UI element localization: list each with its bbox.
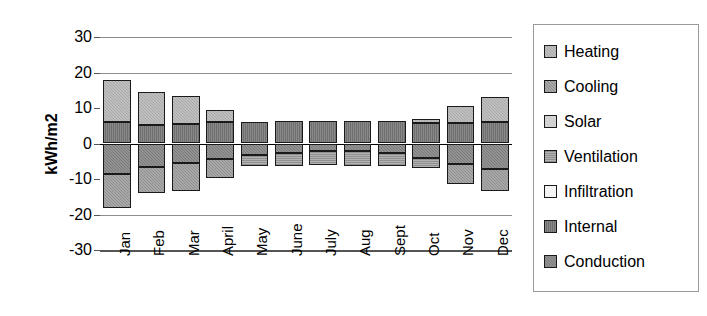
legend-swatch-infiltration-icon	[544, 185, 557, 198]
legend-label: Conduction	[564, 254, 645, 270]
bar-segment-ventilation[interactable]	[412, 158, 439, 167]
bar-segment-internal[interactable]	[309, 121, 336, 143]
bar-segment-conduction[interactable]	[412, 144, 439, 159]
bar-group[interactable]	[378, 37, 405, 250]
bar-group[interactable]	[172, 37, 199, 250]
x-tick-label-text: May	[254, 228, 269, 256]
legend-swatch-ventilation-icon	[544, 150, 557, 163]
bar-segment-heating[interactable]	[206, 110, 233, 122]
bar-group[interactable]	[481, 37, 508, 250]
bar-segment-internal[interactable]	[138, 125, 165, 143]
y-tick-label: 20	[48, 65, 92, 81]
bar-segment-conduction[interactable]	[447, 144, 474, 164]
x-tick-label: Sept	[375, 256, 409, 314]
bar-segment-conduction[interactable]	[344, 144, 371, 152]
x-tick-label-text: June	[289, 223, 304, 256]
energy-balance-chart: kWh/m2 3020100-10-20-30 JanFebMarAprilMa…	[0, 0, 707, 316]
bar-segment-cooling[interactable]	[481, 169, 508, 190]
x-tick-label-text: Oct	[426, 233, 441, 256]
bar-segment-ventilation[interactable]	[378, 153, 405, 166]
legend-label: Infiltration	[564, 184, 633, 200]
bar-segment-internal[interactable]	[481, 122, 508, 143]
bar-segment-internal[interactable]	[412, 123, 439, 144]
x-tick-label: Mar	[169, 256, 203, 314]
legend-item-infiltration[interactable]: Infiltration	[544, 174, 698, 209]
bar-segment-conduction[interactable]	[481, 144, 508, 170]
bar-segment-heating[interactable]	[172, 96, 199, 124]
x-tick-label: Dec	[478, 256, 512, 314]
bar-segment-heating[interactable]	[481, 97, 508, 122]
x-tick-label: Aug	[340, 256, 374, 314]
bar-segment-internal[interactable]	[241, 122, 268, 143]
bar-segment-conduction[interactable]	[275, 144, 302, 154]
bar-segment-internal[interactable]	[275, 121, 302, 143]
bar-group[interactable]	[103, 37, 130, 250]
bar-segment-conduction[interactable]	[172, 144, 199, 164]
legend-item-internal[interactable]: Internal	[544, 209, 698, 244]
bar-segment-conduction[interactable]	[206, 144, 233, 159]
bar-group[interactable]	[138, 37, 165, 250]
bar-segment-internal[interactable]	[172, 124, 199, 144]
bar-group[interactable]	[206, 37, 233, 250]
y-tick-label: -30	[48, 242, 92, 258]
bar-group[interactable]	[241, 37, 268, 250]
legend-swatch-heating-icon	[544, 45, 557, 58]
legend-label: Solar	[564, 114, 601, 130]
bar-group[interactable]	[447, 37, 474, 250]
bar-segment-cooling[interactable]	[138, 167, 165, 193]
x-tick-label: May	[237, 256, 271, 314]
bar-group[interactable]	[344, 37, 371, 250]
legend: HeatingCoolingSolarVentilationInfiltrati…	[533, 24, 699, 292]
legend-swatch-cooling-icon	[544, 80, 557, 93]
bar-segment-internal[interactable]	[103, 122, 130, 143]
legend-item-heating[interactable]: Heating	[544, 34, 698, 69]
legend-item-solar[interactable]: Solar	[544, 104, 698, 139]
bar-group[interactable]	[275, 37, 302, 250]
x-tick-label-text: Nov	[460, 229, 475, 256]
x-tick-label-text: April	[220, 226, 235, 256]
bar-segment-ventilation[interactable]	[344, 151, 371, 166]
x-tick-label-text: Sept	[392, 225, 407, 256]
bar-segment-internal[interactable]	[206, 122, 233, 143]
x-tick-label-text: Dec	[495, 229, 510, 256]
bar-segment-conduction[interactable]	[241, 144, 268, 156]
x-tick-label: Nov	[443, 256, 477, 314]
bar-segment-conduction[interactable]	[138, 144, 165, 167]
bar-segment-heating[interactable]	[447, 106, 474, 123]
legend-swatch-solar-icon	[544, 115, 557, 128]
legend-item-conduction[interactable]: Conduction	[544, 244, 698, 279]
x-tick-label-text: Mar	[186, 230, 201, 256]
bar-segment-ventilation[interactable]	[241, 155, 268, 166]
x-tick-label: April	[203, 256, 237, 314]
legend-item-cooling[interactable]: Cooling	[544, 69, 698, 104]
x-tick-label: Feb	[134, 256, 168, 314]
y-tick-label: -20	[48, 207, 92, 223]
bar-segment-internal[interactable]	[447, 123, 474, 144]
bar-segment-cooling[interactable]	[172, 163, 199, 191]
bar-segment-cooling[interactable]	[103, 174, 130, 208]
bar-segment-heating[interactable]	[103, 80, 130, 123]
bar-segment-conduction[interactable]	[309, 144, 336, 152]
bar-group[interactable]	[412, 37, 439, 250]
bar-group[interactable]	[309, 37, 336, 250]
bar-segment-internal[interactable]	[378, 121, 405, 143]
legend-item-ventilation[interactable]: Ventilation	[544, 139, 698, 174]
bar-segment-ventilation[interactable]	[275, 153, 302, 165]
bar-segment-conduction[interactable]	[103, 144, 130, 174]
bar-segment-heating[interactable]	[412, 119, 439, 123]
x-tick-label: Jan	[100, 256, 134, 314]
legend-label: Ventilation	[564, 149, 638, 165]
bar-segment-heating[interactable]	[138, 92, 165, 125]
bar-segment-internal[interactable]	[344, 121, 371, 143]
legend-label: Heating	[564, 44, 619, 60]
bar-segment-cooling[interactable]	[447, 164, 474, 184]
legend-swatch-conduction-icon	[544, 255, 557, 268]
bar-segment-cooling[interactable]	[206, 159, 233, 178]
bar-segment-conduction[interactable]	[378, 144, 405, 153]
x-tick-label-text: Jan	[117, 232, 132, 256]
x-tick-label-text: Feb	[151, 230, 166, 256]
legend-label: Internal	[564, 219, 617, 235]
x-tick-label: July	[306, 256, 340, 314]
bar-segment-ventilation[interactable]	[309, 151, 336, 165]
legend-swatch-internal-icon	[544, 220, 557, 233]
